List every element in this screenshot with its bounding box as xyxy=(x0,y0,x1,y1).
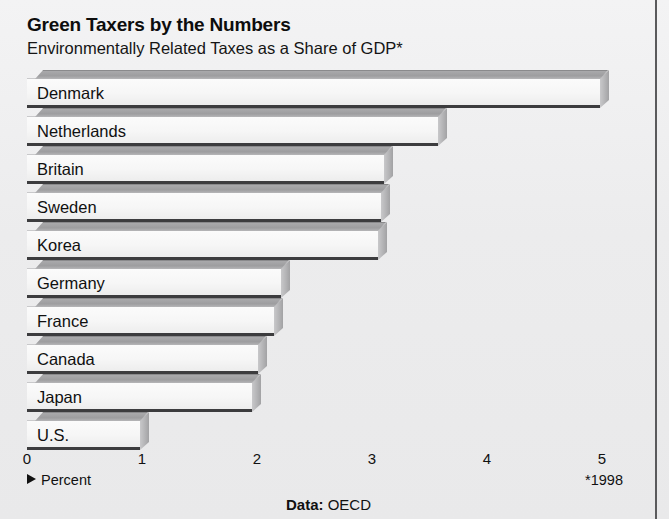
triangle-marker-icon xyxy=(27,474,36,484)
bar-row: Germany xyxy=(27,260,281,298)
bar-category-label: Netherlands xyxy=(37,118,126,144)
source-value: OECD xyxy=(328,496,371,513)
bar-category-label: U.S. xyxy=(37,422,69,448)
chart-subtitle: Environmentally Related Taxes as a Share… xyxy=(27,39,627,58)
bar-category-label: Germany xyxy=(37,270,105,296)
bar-row: France xyxy=(27,298,274,336)
chart-header: Green Taxers by the Numbers Environmenta… xyxy=(27,14,627,58)
bar-row: U.S. xyxy=(27,412,140,450)
source-label: Data: xyxy=(286,496,324,513)
bar-category-label: Britain xyxy=(37,156,84,182)
bar-top-face xyxy=(35,336,266,345)
x-axis-tick-label: 5 xyxy=(598,450,606,467)
page-title: Green Taxers by the Numbers xyxy=(27,14,627,36)
bar-category-label: Sweden xyxy=(37,194,97,220)
bar-chart-plot-area: DenmarkNetherlandsBritainSwedenKoreaGerm… xyxy=(0,70,657,450)
x-axis-tick-label: 3 xyxy=(368,450,376,467)
bar-top-face xyxy=(35,374,260,383)
bar-front-face xyxy=(27,78,600,108)
x-axis-tick-label: 2 xyxy=(253,450,261,467)
bar-row: Netherlands xyxy=(27,108,438,146)
bar-top-face xyxy=(35,260,289,269)
bar-denmark[interactable] xyxy=(27,70,600,108)
footnote: *1998 xyxy=(585,472,623,488)
x-axis-tick-label: 4 xyxy=(483,450,491,467)
bar-category-label: Korea xyxy=(37,232,81,258)
x-axis-tick-label: 0 xyxy=(23,450,31,467)
bar-row: Denmark xyxy=(27,70,600,108)
x-axis-tick-label: 1 xyxy=(138,450,146,467)
bar-top-face xyxy=(35,222,386,231)
bar-top-face xyxy=(35,412,148,421)
source-line: Data: OECD xyxy=(0,496,657,513)
bar-category-label: Japan xyxy=(37,384,82,410)
bar-row: Japan xyxy=(27,374,252,412)
bar-top-face xyxy=(35,298,282,307)
bar-row: Sweden xyxy=(27,184,381,222)
bar-category-label: Canada xyxy=(37,346,95,372)
bar-row: Korea xyxy=(27,222,378,260)
bar-top-face xyxy=(35,146,392,155)
bar-row: Britain xyxy=(27,146,384,184)
bar-category-label: France xyxy=(37,308,88,334)
axis-unit-label: Percent xyxy=(41,472,91,488)
bar-top-face xyxy=(35,184,389,193)
bar-top-face xyxy=(35,108,446,117)
axis-unit-note: Percent xyxy=(27,472,91,488)
bar-top-face xyxy=(35,70,608,79)
bar-category-label: Denmark xyxy=(37,80,104,106)
x-axis: 012345 xyxy=(0,450,657,474)
bar-row: Canada xyxy=(27,336,258,374)
